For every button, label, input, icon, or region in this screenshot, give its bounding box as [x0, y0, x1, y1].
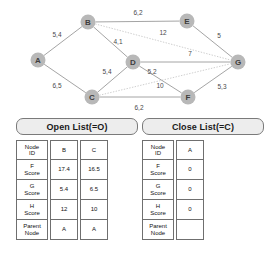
close-list-cell-f-score: 0 [176, 160, 204, 180]
edge-weight-c-d: 5,4 [102, 68, 111, 75]
graph-node-a: A [31, 53, 46, 68]
open-list-row-label: HScore [16, 200, 48, 220]
open-list-cell-node-id: B [50, 140, 78, 160]
open-list-row-label: NodeID [16, 140, 48, 160]
open-list-row-label: FScore [16, 160, 48, 180]
open-list-table: NodeIDFScoreGScoreHScoreParentNodeB17.45… [16, 140, 138, 240]
node-label-d: D [130, 58, 136, 67]
close-list-block: Close List(=C) NodeIDFScoreGScoreHScoreP… [142, 118, 264, 240]
open-list-cell-g-score: 5.4 [50, 180, 78, 200]
node-label-a: A [35, 56, 41, 65]
close-list-row-label: GScore [142, 180, 174, 200]
edge-weight-f-g: 5,3 [217, 83, 226, 90]
open-list-row-label: GScore [16, 180, 48, 200]
edge-weight-a-c: 6,5 [52, 82, 61, 89]
edge-weight-d-f: 5,2 [147, 68, 156, 75]
close-list-cell-node-id: A [176, 140, 204, 160]
close-list-cell-h-score: 0 [176, 200, 204, 220]
edge-weight-b-d: 4,1 [113, 38, 122, 45]
graph-svg: 5,46,54,16,2125,46,21075,255,3 ABCDEFG [0, 0, 276, 118]
edge-weight-d-g: 7 [188, 50, 192, 57]
edge-weight-b-g: 12 [159, 29, 167, 36]
node-label-f: F [186, 93, 191, 102]
close-list-row-labels-column: NodeIDFScoreGScoreHScoreParentNode [142, 140, 174, 240]
open-list-cell-h-score: 10 [80, 200, 108, 220]
close-list-cell-g-score: 0 [176, 180, 204, 200]
close-list-row-label: ParentNode [142, 220, 174, 240]
node-label-c: C [89, 93, 95, 102]
graph-node-e: E [180, 14, 195, 29]
edge-weight-e-g: 5 [217, 32, 221, 39]
graph-edge-a-b [44, 27, 82, 56]
close-list-column-a: A000 [176, 140, 204, 240]
open-list-block: Open List(=O) NodeIDFScoreGScoreHScorePa… [16, 118, 138, 240]
graph-node-d: D [126, 55, 141, 70]
edge-weight-c-g: 10 [156, 82, 164, 89]
open-list-row-labels-column: NodeIDFScoreGScoreHScoreParentNode [16, 140, 48, 240]
graph-edge-e-g [193, 26, 232, 58]
open-list-cell-f-score: 17.4 [50, 160, 78, 180]
node-label-e: E [184, 17, 190, 26]
node-label-g: G [235, 58, 241, 67]
open-list-column-c: C16.56.510A [80, 140, 108, 240]
open-list-cell-parent: A [80, 220, 108, 240]
open-list-cell-parent: A [50, 220, 78, 240]
graph-edge-a-c [44, 64, 86, 93]
edge-weight-c-f: 6,2 [134, 104, 143, 111]
open-list-cell-node-id: C [80, 140, 108, 160]
graph-node-g: G [231, 55, 246, 70]
lists-area: Open List(=O) NodeIDFScoreGScoreHScorePa… [0, 118, 276, 259]
open-list-cell-f-score: 16.5 [80, 160, 108, 180]
close-list-row-label: FScore [142, 160, 174, 180]
close-list-row-label: NodeID [142, 140, 174, 160]
edge-weight-b-e: 6,2 [133, 9, 142, 16]
close-list-table: NodeIDFScoreGScoreHScoreParentNodeA000 [142, 140, 264, 240]
close-list-row-label: HScore [142, 200, 174, 220]
node-label-b: B [85, 18, 91, 27]
graph-node-b: B [81, 15, 96, 30]
graph-node-c: C [85, 90, 100, 105]
open-list-column-b: B17.45.412A [50, 140, 78, 240]
open-list-cell-g-score: 6.5 [80, 180, 108, 200]
open-list-title: Open List(=O) [16, 118, 138, 135]
open-list-cell-h-score: 12 [50, 200, 78, 220]
graph-diagram-panel: 5,46,54,16,2125,46,21075,255,3 ABCDEFG [0, 0, 276, 118]
graph-edge-b-e [95, 21, 179, 22]
close-list-cell-parent [176, 220, 204, 240]
graph-edge-c-g [99, 64, 230, 96]
graph-nodes-layer: ABCDEFG [31, 14, 246, 105]
open-list-row-label: ParentNode [16, 220, 48, 240]
close-list-title: Close List(=C) [142, 118, 264, 135]
graph-node-f: F [181, 90, 196, 105]
edge-weight-a-b: 5,4 [52, 31, 61, 38]
